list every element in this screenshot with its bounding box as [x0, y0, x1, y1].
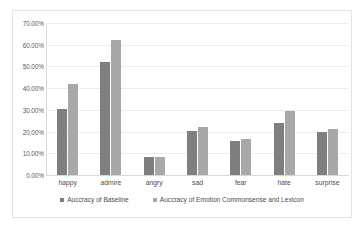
x-axis-tick-label: happy [58, 179, 77, 186]
bar [274, 123, 284, 175]
y-axis-tick-label: 0.00% [11, 172, 44, 179]
legend-entry[interactable]: Auccracy of Baseline [60, 196, 129, 203]
chart-frame: 0.00%10.00%20.00%30.00%40.00%50.00%60.00… [12, 10, 352, 218]
x-axis-tick-labels: happyadmireangrysadfearhatesurprise [46, 179, 349, 193]
bar [328, 129, 338, 175]
bar-group [274, 23, 295, 175]
x-axis-tick-label: angry [146, 179, 163, 186]
chart-legend: Auccracy of BaselineAuccracy of Emotion … [13, 196, 351, 203]
x-axis-tick-label: fear [235, 179, 247, 186]
y-axis-tick-label: 30.00% [11, 106, 44, 113]
bar [100, 62, 110, 175]
legend-label: Auccracy of Baseline [67, 196, 129, 203]
bar-group [57, 23, 78, 175]
bar [68, 84, 78, 175]
bar [187, 131, 197, 175]
legend-swatch-icon [60, 198, 64, 202]
bar [230, 141, 240, 175]
bar-group [230, 23, 251, 175]
bar [241, 139, 251, 175]
bar [144, 157, 154, 175]
plot-area [46, 23, 349, 175]
y-axis-tick-label: 20.00% [11, 128, 44, 135]
y-axis-tick-labels: 0.00%10.00%20.00%30.00%40.00%50.00%60.00… [13, 23, 44, 175]
x-axis-tick-label: surprise [315, 179, 339, 186]
y-axis-tick-label: 10.00% [11, 150, 44, 157]
y-axis-tick-label: 60.00% [11, 41, 44, 48]
x-axis-tick-label: sad [192, 179, 203, 186]
gridline [46, 175, 349, 176]
legend-swatch-icon [153, 198, 157, 202]
legend-entry[interactable]: Auccracy of Emotion Commonsense and Lexi… [153, 196, 304, 203]
bar [155, 157, 165, 175]
y-axis-tick-label: 70.00% [11, 20, 44, 27]
bar [111, 40, 121, 175]
x-axis-tick-label: hate [277, 179, 290, 186]
bar-group [100, 23, 121, 175]
y-axis-tick-label: 40.00% [11, 85, 44, 92]
bar [317, 132, 327, 175]
bar-group [187, 23, 208, 175]
bar-group [317, 23, 338, 175]
legend-label: Auccracy of Emotion Commonsense and Lexi… [160, 196, 304, 203]
bar [198, 127, 208, 175]
bar-group [144, 23, 165, 175]
bar [57, 109, 67, 175]
x-axis-tick-label: admire [101, 179, 122, 186]
y-axis-tick-label: 50.00% [11, 63, 44, 70]
bar [285, 111, 295, 175]
